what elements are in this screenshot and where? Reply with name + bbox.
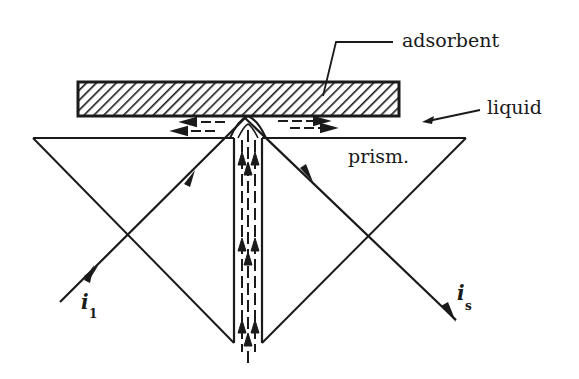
prism-label: prism.: [348, 145, 409, 167]
liquid-label: liquid: [487, 96, 542, 118]
incident-beam-label: i 1: [81, 290, 97, 321]
adsorption-prism-diagram: adsorbent liquid prism. i 1 i s: [0, 0, 579, 379]
liquid-leader-arrow: [422, 110, 480, 124]
flow-channel: [234, 130, 262, 365]
incident-beam: [60, 118, 245, 302]
reflected-beam-label: i s: [457, 281, 472, 313]
adsorbent-label: adsorbent: [402, 29, 499, 51]
adsorbent-plate: [78, 82, 399, 116]
reflected-subscript: s: [465, 299, 472, 313]
reflected-symbol: i: [457, 281, 465, 305]
incident-symbol: i: [81, 290, 89, 314]
incident-subscript: 1: [89, 307, 97, 321]
